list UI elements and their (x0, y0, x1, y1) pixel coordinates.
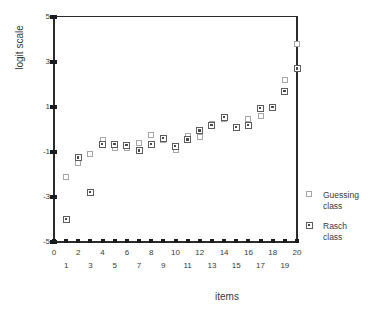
x-tick-label: 4 (95, 249, 111, 257)
data-point-guessing (197, 134, 203, 140)
y-axis-line (53, 16, 55, 243)
x-tick-label: 6 (119, 249, 135, 257)
data-point-rasch (123, 142, 130, 149)
data-point-rasch (111, 141, 118, 148)
x-tick (113, 239, 117, 243)
legend-item-guessing: Guessing class (306, 190, 378, 212)
data-point-guessing (136, 140, 142, 146)
x-tick-label: 5 (107, 262, 123, 270)
x-tick (295, 239, 299, 243)
data-point-rasch (245, 122, 252, 129)
x-tick-label: 20 (289, 249, 305, 257)
data-point-rasch (136, 147, 143, 154)
x-tick (125, 239, 129, 243)
data-point-rasch (75, 154, 82, 161)
x-axis-title: items (215, 291, 239, 302)
y-tick (50, 60, 57, 64)
x-tick (88, 239, 92, 243)
y-axis-title: logit scale (14, 11, 25, 85)
x-tick (234, 239, 238, 243)
y-tick-label: 5 (36, 13, 50, 21)
y-tick-label: -1 (36, 148, 50, 156)
x-tick-label: 0 (46, 249, 62, 257)
chart-legend: Guessing class Rasch class (306, 190, 378, 252)
x-tick-label: 17 (253, 262, 269, 270)
data-point-rasch (160, 135, 167, 142)
x-tick-label: 1 (58, 262, 74, 270)
data-point-guessing (282, 77, 288, 83)
x-tick (76, 239, 80, 243)
x-tick-label: 9 (155, 262, 171, 270)
legend-item-rasch: Rasch class (306, 221, 378, 243)
data-point-rasch (63, 216, 70, 223)
x-tick (64, 239, 68, 243)
x-tick (283, 239, 287, 243)
x-tick (246, 239, 250, 243)
data-point-guessing (294, 41, 300, 47)
data-point-rasch (281, 88, 288, 95)
data-point-rasch (196, 127, 203, 134)
legend-label-rasch: Rasch class (323, 221, 378, 243)
y-tick-label: 3 (36, 58, 50, 66)
data-point-rasch (233, 124, 240, 131)
legend-label-rasch-line2: class (323, 232, 378, 243)
y-tick (50, 105, 57, 109)
x-tick-label: 14 (216, 249, 232, 257)
y-tick-label: -5 (36, 238, 50, 246)
right-axis-line (296, 16, 298, 243)
x-tick-label: 15 (228, 262, 244, 270)
data-point-guessing (75, 160, 81, 166)
data-point-rasch (269, 104, 276, 111)
data-point-rasch (221, 114, 228, 121)
x-tick (210, 239, 214, 243)
x-tick-label: 18 (265, 249, 281, 257)
data-point-rasch (257, 105, 264, 112)
x-tick (174, 239, 178, 243)
x-tick-label: 19 (277, 262, 293, 270)
legend-label-guessing: Guessing class (323, 190, 378, 212)
x-tick (137, 239, 141, 243)
y-tick (50, 15, 57, 19)
x-tick (222, 239, 226, 243)
x-tick-label: 2 (70, 249, 86, 257)
x-tick-label: 12 (192, 249, 208, 257)
x-tick-label: 13 (204, 262, 220, 270)
data-point-guessing (258, 113, 264, 119)
x-tick-label: 11 (180, 262, 196, 270)
data-point-rasch (208, 122, 215, 129)
data-point-guessing (148, 132, 154, 138)
data-point-rasch (172, 143, 179, 150)
x-tick (52, 239, 56, 243)
x-tick-label: 3 (82, 262, 98, 270)
data-point-rasch (87, 189, 94, 196)
x-tick (198, 239, 202, 243)
data-point-guessing (87, 151, 93, 157)
x-tick (161, 239, 165, 243)
scatter-chart: 531-1-3-5 012345678910111213141516171819… (0, 0, 381, 325)
rasch-class-marker-icon (306, 222, 313, 229)
x-tick-label: 7 (131, 262, 147, 270)
data-point-rasch (294, 65, 301, 72)
y-tick (50, 195, 57, 199)
top-axis-line (53, 16, 298, 17)
x-tick (259, 239, 263, 243)
x-tick (271, 239, 275, 243)
y-tick-label: 1 (36, 103, 50, 111)
data-point-rasch (148, 141, 155, 148)
x-tick-label: 10 (168, 249, 184, 257)
x-tick (101, 239, 105, 243)
x-tick (149, 239, 153, 243)
guessing-class-marker-icon (306, 191, 312, 197)
y-tick-label: -3 (36, 193, 50, 201)
x-tick-label: 8 (143, 249, 159, 257)
legend-label-rasch-line1: Rasch (323, 221, 378, 232)
data-point-guessing (63, 174, 69, 180)
data-point-rasch (99, 141, 106, 148)
data-point-rasch (184, 136, 191, 143)
y-tick (50, 150, 57, 154)
legend-label-guessing-line1: Guessing (323, 190, 378, 201)
x-tick-label: 16 (240, 249, 256, 257)
x-tick (186, 239, 190, 243)
legend-label-guessing-line2: class (323, 201, 378, 212)
